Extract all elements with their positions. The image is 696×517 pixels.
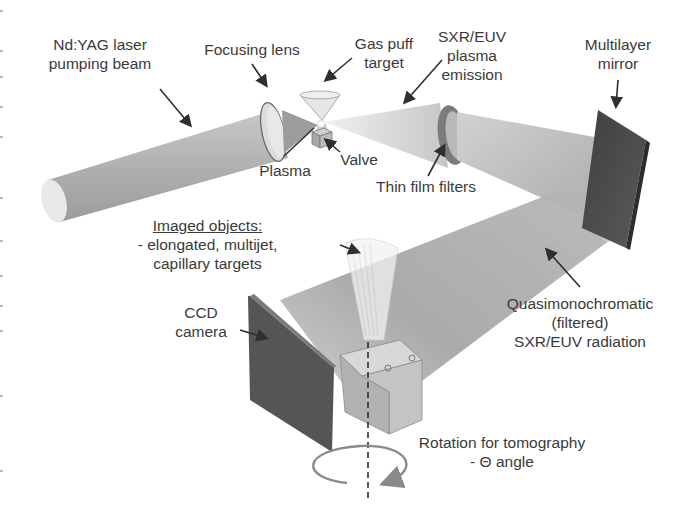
label-filtered-radiation: Quasimonochromatic (filtered) SXR/EUV ra… xyxy=(495,294,665,351)
label-heading: Imaged objects: xyxy=(125,216,290,235)
label-multilayer-mirror: Multilayer mirror xyxy=(578,35,658,73)
multilayer-mirror xyxy=(582,110,650,250)
label-line: pumping beam xyxy=(30,54,170,73)
label-plasma: Plasma xyxy=(250,161,320,180)
label-line: Rotation for tomography xyxy=(402,433,602,452)
plasma-spot xyxy=(318,121,325,128)
label-line: Focusing lens xyxy=(192,40,312,59)
label-line: Nd:YAG laser xyxy=(30,35,170,54)
label-line: (filtered) xyxy=(495,313,665,332)
label-rotation: Rotation for tomography - Θ angle xyxy=(402,433,602,471)
label-plasma-emission: SXR/EUV plasma emission xyxy=(432,27,512,84)
label-line: target xyxy=(344,53,424,72)
label-line: - elongated, multijet, xyxy=(125,235,290,254)
label-line: Gas puff xyxy=(344,34,424,53)
label-line: Quasimonochromatic xyxy=(495,294,665,313)
label-line: SXR/EUV xyxy=(432,27,512,46)
label-line: - Θ angle xyxy=(402,452,602,471)
label-line: Valve xyxy=(334,150,384,169)
rotation-arrow-icon xyxy=(313,446,406,483)
label-line: plasma xyxy=(432,46,512,65)
label-line: camera xyxy=(166,322,236,341)
left-edge-marks xyxy=(0,0,4,517)
rotation-stage xyxy=(340,340,422,434)
label-focusing-lens: Focusing lens xyxy=(192,40,312,59)
label-ccd-camera: CCD camera xyxy=(166,303,236,341)
label-line: capillary targets xyxy=(125,254,290,273)
label-line: Plasma xyxy=(250,161,320,180)
label-imaged-objects: Imaged objects: - elongated, multijet, c… xyxy=(125,216,290,273)
valve xyxy=(312,128,332,148)
label-valve: Valve xyxy=(334,150,384,169)
label-thin-film-filters: Thin film filters xyxy=(366,177,486,196)
label-line: emission xyxy=(432,65,512,84)
label-line: CCD xyxy=(166,303,236,322)
label-line: Multilayer xyxy=(578,35,658,54)
label-laser-beam: Nd:YAG laser pumping beam xyxy=(30,35,170,73)
label-line: Thin film filters xyxy=(366,177,486,196)
label-line: SXR/EUV radiation xyxy=(495,332,665,351)
label-gas-puff-target: Gas puff target xyxy=(344,34,424,72)
label-line: mirror xyxy=(578,54,658,73)
